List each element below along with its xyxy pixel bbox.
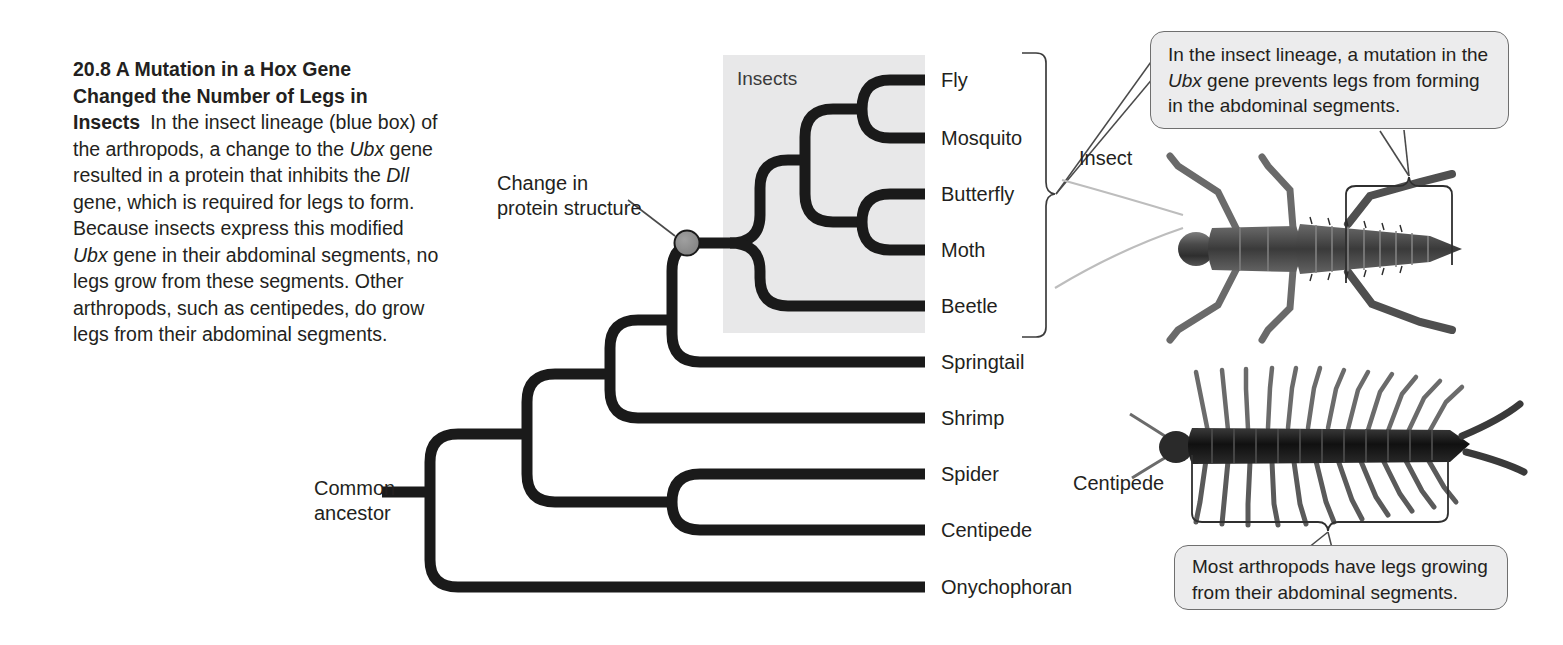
branch-centipede <box>672 502 925 530</box>
branch-nodeA-down <box>527 434 672 502</box>
tip-label-centipede: Centipede <box>941 518 1032 543</box>
callout-top-text-part1: In the insect lineage, a mutation in the <box>1168 44 1488 65</box>
tip-label-butterfly: Butterfly <box>941 182 1014 207</box>
tip-label-springtail: Springtail <box>941 350 1024 375</box>
callout-bottom-text: Most arthropods have legs growing from t… <box>1192 556 1488 603</box>
protein-change-label-line2: protein structure <box>497 197 642 219</box>
protein-change-label: Change in protein structure <box>497 171 642 221</box>
callout-top-text-part2: gene prevents legs from forming in the a… <box>1168 70 1480 117</box>
bracket-leader-line-1 <box>1056 48 1161 194</box>
insects-clade-box-label: Insects <box>737 66 797 91</box>
branch-nodeB-up <box>610 320 672 374</box>
figure-container: 20.8 A Mutation in a Hox Gene Changed th… <box>0 0 1563 645</box>
branch-spider <box>672 474 925 502</box>
centipede-photo-label: Centipede <box>1073 471 1164 496</box>
branch-root-split <box>430 434 527 492</box>
tip-label-moth: Moth <box>941 238 985 263</box>
branch-nodeA-up <box>527 374 610 434</box>
common-ancestor-label-line1: Common <box>314 477 395 499</box>
branch-shrimp <box>610 374 925 418</box>
protein-change-label-line1: Change in <box>497 172 588 194</box>
common-ancestor-label-line2: ancestor <box>314 502 391 524</box>
insect-clade-bracket <box>1022 53 1055 337</box>
tip-label-onychophoran: Onychophoran <box>941 575 1072 600</box>
tip-label-mosquito: Mosquito <box>941 126 1022 151</box>
common-ancestor-label: Common ancestor <box>314 476 395 526</box>
tip-label-beetle: Beetle <box>941 294 998 319</box>
tip-label-spider: Spider <box>941 462 999 487</box>
tip-label-fly: Fly <box>941 68 968 93</box>
callout-insect-lineage: In the insect lineage, a mutation in the… <box>1150 31 1509 129</box>
callout-most-arthropods: Most arthropods have legs growing from t… <box>1174 545 1508 610</box>
protein-change-node-marker <box>675 231 700 256</box>
tip-label-shrimp: Shrimp <box>941 406 1004 431</box>
callout-top-gene-ubx: Ubx <box>1168 70 1202 91</box>
insect-photo-label: Insect <box>1079 146 1132 171</box>
centipede-photo-illustration <box>1130 368 1524 548</box>
